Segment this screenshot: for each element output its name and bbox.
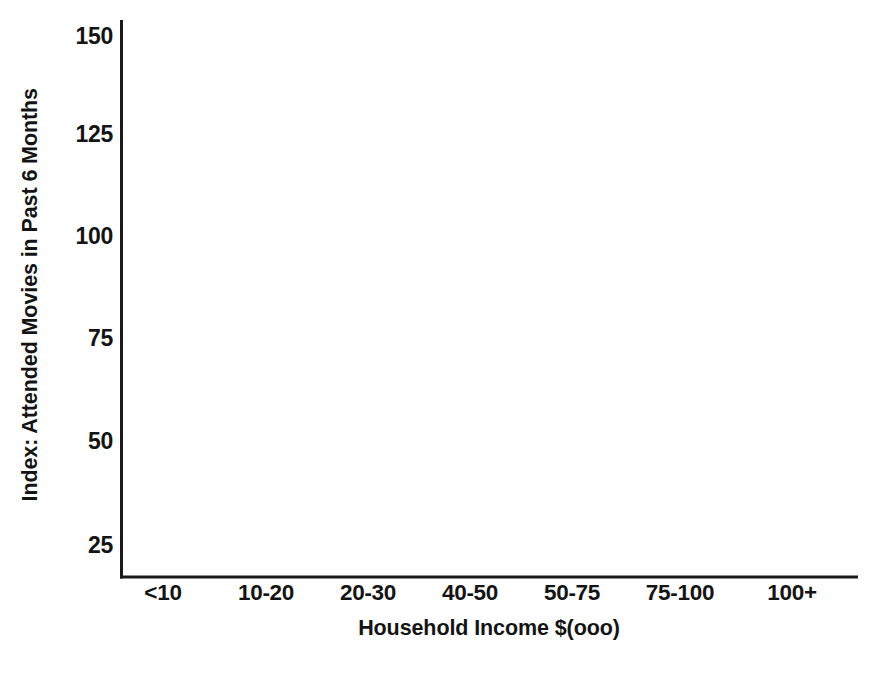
- x-axis-tick-labels: <10 10-20 20-30 40-50 50-75 75-100 100+: [120, 582, 858, 614]
- y-axis-tick-labels: 150 125 100 75 50 25: [58, 0, 113, 679]
- chart-figure: Index: Attended Movies in Past 6 Months …: [0, 0, 880, 679]
- y-tick-label: 50: [58, 430, 113, 453]
- y-axis-title-text: Index: Attended Movies in Past 6 Months: [20, 88, 42, 501]
- y-tick-label: 125: [58, 123, 113, 146]
- x-axis-title: Household Income $(ooo): [120, 618, 858, 640]
- y-tick-label: 25: [58, 534, 113, 557]
- y-tick-label: 100: [58, 225, 113, 248]
- y-tick-label: 75: [58, 327, 113, 350]
- y-axis-title: Index: Attended Movies in Past 6 Months: [0, 0, 62, 590]
- x-tick-label: 75-100: [646, 582, 714, 605]
- x-tick-label: 100+: [767, 582, 816, 605]
- x-tick-label: <10: [144, 582, 181, 605]
- y-tick-label: 150: [58, 25, 113, 48]
- x-tick-label: 20-30: [340, 582, 396, 605]
- x-tick-label: 10-20: [238, 582, 294, 605]
- plot-area: [121, 20, 858, 577]
- x-tick-label: 40-50: [442, 582, 498, 605]
- x-tick-label: 50-75: [544, 582, 600, 605]
